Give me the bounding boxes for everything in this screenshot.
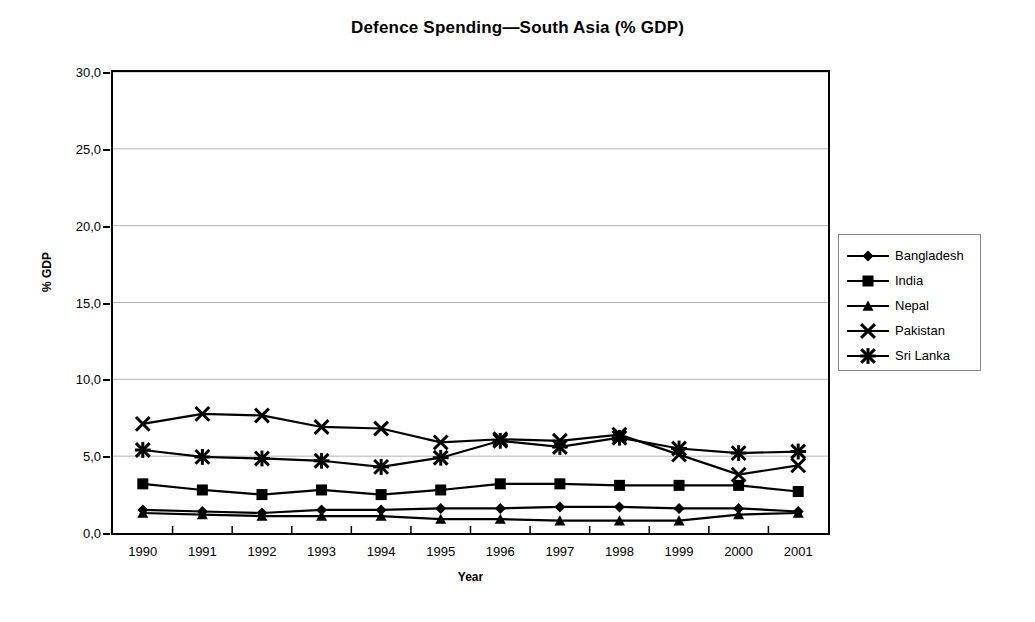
x-tick-label: 1995 bbox=[426, 544, 455, 559]
data-point-square bbox=[674, 480, 685, 491]
data-point-asterisk bbox=[254, 451, 270, 467]
y-tick-label: 5,0 bbox=[49, 449, 101, 464]
legend-item[interactable]: Bangladesh bbox=[845, 243, 974, 268]
data-point-square bbox=[863, 275, 874, 286]
data-point-asterisk bbox=[860, 348, 876, 364]
chart-container: Defence Spending—South Asia (% GDP) % GD… bbox=[0, 0, 1035, 622]
legend-label: Bangladesh bbox=[895, 248, 964, 263]
data-point-square bbox=[554, 478, 565, 489]
legend-marker-asterisk-icon bbox=[845, 346, 891, 366]
data-point-asterisk bbox=[194, 449, 210, 465]
data-point-diamond bbox=[554, 501, 565, 512]
x-tick-label: 2000 bbox=[724, 544, 753, 559]
y-tick-label: 20,0 bbox=[49, 218, 101, 233]
y-tick-mark bbox=[103, 379, 110, 381]
data-point-asterisk bbox=[492, 433, 508, 449]
y-tick-mark bbox=[103, 456, 110, 458]
data-point-diamond bbox=[435, 503, 446, 514]
data-point-square bbox=[435, 484, 446, 495]
legend-item[interactable]: Sri Lanka bbox=[845, 343, 974, 368]
y-tick-label: 0,0 bbox=[49, 526, 101, 541]
data-point-square bbox=[614, 480, 625, 491]
y-tick-label: 30,0 bbox=[49, 65, 101, 80]
x-tick-label: 1996 bbox=[486, 544, 515, 559]
data-point-square bbox=[793, 486, 804, 497]
x-tick-label: 1997 bbox=[545, 544, 574, 559]
legend-label: Nepal bbox=[895, 298, 929, 313]
data-point-diamond bbox=[614, 501, 625, 512]
legend-marker-square-icon bbox=[845, 271, 891, 291]
legend-item[interactable]: Nepal bbox=[845, 293, 974, 318]
data-point-asterisk bbox=[373, 459, 389, 475]
x-tick-label: 1993 bbox=[307, 544, 336, 559]
data-point-asterisk bbox=[790, 444, 806, 460]
x-tick-label: 1999 bbox=[665, 544, 694, 559]
legend-label: Pakistan bbox=[895, 323, 945, 338]
legend-item[interactable]: India bbox=[845, 268, 974, 293]
data-point-square bbox=[256, 489, 267, 500]
legend-marker-triangle-icon bbox=[845, 296, 891, 316]
legend-marker-diamond-icon bbox=[845, 246, 891, 266]
data-point-square bbox=[733, 480, 744, 491]
x-tick-label: 1998 bbox=[605, 544, 634, 559]
chart-title: Defence Spending—South Asia (% GDP) bbox=[0, 18, 1035, 38]
series-line-pakistan bbox=[143, 414, 798, 475]
legend-label: India bbox=[895, 273, 923, 288]
data-point-asterisk bbox=[433, 450, 449, 466]
data-point-asterisk bbox=[612, 430, 628, 446]
data-point-square bbox=[376, 489, 387, 500]
legend-rows: BangladeshIndiaNepalPakistanSri Lanka bbox=[845, 243, 974, 368]
y-tick-label: 25,0 bbox=[49, 141, 101, 156]
y-tick-mark bbox=[103, 303, 110, 305]
y-tick-mark bbox=[103, 72, 110, 74]
x-tick-label: 1994 bbox=[367, 544, 396, 559]
y-tick-mark bbox=[103, 149, 110, 151]
plot-area bbox=[111, 70, 830, 535]
data-point-asterisk bbox=[731, 445, 747, 461]
y-tick-mark bbox=[103, 226, 110, 228]
y-tick-mark bbox=[103, 533, 110, 535]
x-axis-title: Year bbox=[0, 570, 941, 584]
legend-label: Sri Lanka bbox=[895, 348, 950, 363]
data-point-asterisk bbox=[552, 439, 568, 455]
data-point-diamond bbox=[674, 503, 685, 514]
legend-marker-cross-icon bbox=[845, 321, 891, 341]
series-line-india bbox=[143, 484, 798, 495]
y-tick-label: 10,0 bbox=[49, 372, 101, 387]
legend: BangladeshIndiaNepalPakistanSri Lanka bbox=[838, 234, 981, 371]
data-point-square bbox=[316, 484, 327, 495]
x-tick-label: 1991 bbox=[188, 544, 217, 559]
series-line-bangladesh bbox=[143, 507, 798, 513]
y-tick-label: 15,0 bbox=[49, 295, 101, 310]
x-tick-label: 1992 bbox=[247, 544, 276, 559]
data-point-diamond bbox=[495, 503, 506, 514]
data-point-asterisk bbox=[135, 442, 151, 458]
series-layer bbox=[113, 72, 828, 533]
data-point-square bbox=[197, 484, 208, 495]
plot-inner bbox=[113, 72, 828, 533]
legend-item[interactable]: Pakistan bbox=[845, 318, 974, 343]
x-tick-label: 1990 bbox=[128, 544, 157, 559]
data-point-asterisk bbox=[314, 453, 330, 469]
data-point-square bbox=[495, 478, 506, 489]
x-tick-label: 2001 bbox=[784, 544, 813, 559]
series-line-nepal bbox=[143, 513, 798, 521]
data-point-diamond bbox=[863, 250, 874, 261]
data-point-square bbox=[137, 478, 148, 489]
data-point-asterisk bbox=[671, 441, 687, 457]
y-axis-title: % GDP bbox=[40, 252, 54, 292]
